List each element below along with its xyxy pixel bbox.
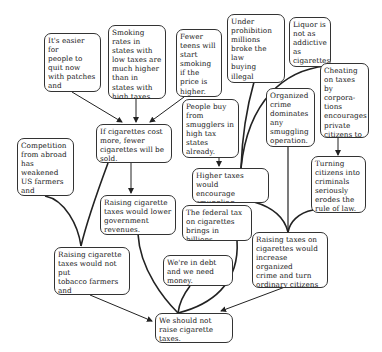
edge-higher-taxes-to-increase-crime	[254, 202, 288, 232]
edge-debt-to-conclusion	[178, 286, 190, 313]
node-smoking-rates: Smoking rates in states with low taxes a…	[108, 25, 166, 99]
node-organized-crime: Organized crime dominates any smuggling …	[266, 88, 315, 147]
node-not-put-out-of-business: Raising cigarette taxes would not put to…	[54, 247, 130, 295]
edge-turning-to-increase-crime	[288, 210, 313, 232]
node-federal-tax: The federal tax on cigarettes brings in …	[182, 205, 252, 241]
edge-increase-crime-to-conclusion	[221, 287, 285, 311]
node-lower-revenue: Raising cigarette taxes would lower gove…	[100, 195, 176, 235]
edge-competition-to-not-put	[45, 196, 81, 246]
node-people-buy: People buy from smugglers in high tax st…	[182, 99, 239, 158]
edge-not-put-to-conclusion	[90, 295, 152, 321]
node-increase-crime: Raising taxes on cigarettes would increa…	[252, 232, 328, 288]
node-cost-more: If cigarettes cost more, fewer cigarette…	[96, 124, 172, 163]
argument-map: It's easier for people to quit now with …	[0, 0, 382, 352]
node-fewer-teens: Fewer teens will start smoking if the pr…	[176, 29, 222, 97]
node-higher-taxes: Higher taxes would encourage smuggling.	[192, 168, 269, 203]
node-turning-citizens: Turning citizens into criminals seriousl…	[311, 156, 366, 213]
node-competition: Competition from abroad has weakened US …	[17, 138, 74, 196]
node-prohibition: Under prohibition millions broke the law…	[227, 14, 285, 83]
node-liquor: Liquor is not as addictive as cigarettes…	[289, 17, 331, 67]
edge-fewer-teens-to-cost-more	[150, 97, 184, 122]
node-cheating: Cheating on taxes by corpora- tions enco…	[320, 63, 369, 138]
node-in-debt: We're in debt and we need money.	[163, 255, 233, 286]
node-conclusion: We should not raise cigarette taxes.	[155, 313, 233, 343]
node-easier-to-quit: It's easier for people to quit now with …	[44, 33, 101, 92]
